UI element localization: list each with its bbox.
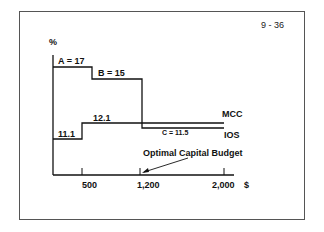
annotation-text: Optimal Capital Budget — [143, 148, 243, 158]
arrow-head-icon — [142, 168, 149, 173]
tick-label-500: 500 — [82, 180, 97, 190]
chart-plot — [0, 0, 324, 232]
x-axis-label: $ — [244, 180, 249, 190]
legend-ios: IOS — [224, 130, 240, 140]
legend-mcc: MCC — [222, 109, 243, 119]
tick-label-1200: 1,200 — [137, 180, 160, 190]
ios-line — [53, 67, 224, 128]
label-c: C = 11.5 — [162, 129, 188, 136]
label-mcc-high: 12.1 — [93, 113, 111, 123]
y-axis-label: % — [49, 37, 57, 47]
tick-label-2000: 2,000 — [212, 180, 235, 190]
mcc-line — [53, 123, 224, 139]
label-b: B = 15 — [98, 68, 125, 78]
label-a: A = 17 — [58, 56, 84, 66]
label-mcc-low: 11.1 — [58, 129, 75, 139]
annotation-arrow — [144, 158, 188, 172]
